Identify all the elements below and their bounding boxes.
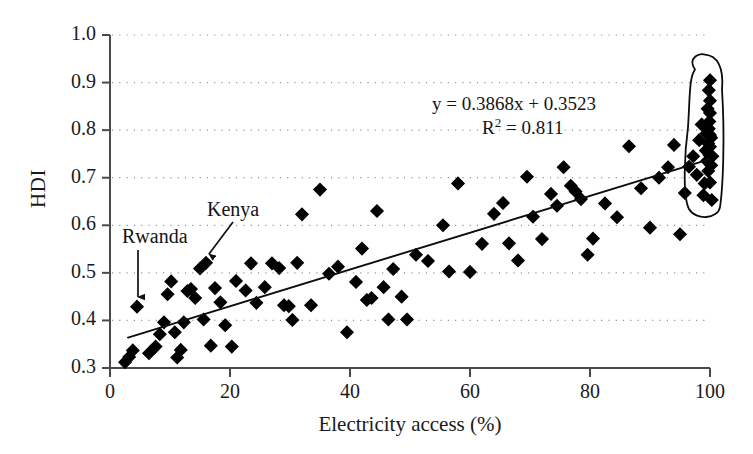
y-tick-label: 1.0 [40, 22, 96, 45]
data-point [239, 284, 251, 296]
data-point [668, 139, 680, 151]
data-point [131, 300, 143, 312]
y-tick-label: 0.5 [40, 260, 96, 283]
data-point [230, 275, 242, 287]
annotation-label-rwanda: Rwanda [122, 225, 188, 248]
data-point [161, 288, 173, 300]
data-point [291, 257, 303, 269]
data-point [437, 219, 449, 231]
data-point [296, 208, 308, 220]
x-tick-label: 100 [680, 380, 740, 403]
data-points-group [119, 74, 719, 368]
data-point [356, 242, 368, 254]
data-point [581, 249, 593, 261]
trendline-equation: y = 0.3868x + 0.3523 [432, 93, 596, 115]
data-point [169, 326, 181, 338]
data-point [452, 177, 464, 189]
data-point [587, 232, 599, 244]
data-point [341, 326, 353, 338]
data-point [205, 339, 217, 351]
data-point [635, 182, 647, 194]
kenya-annotation-arrow [209, 222, 233, 254]
data-point [314, 183, 326, 195]
data-point [350, 276, 362, 288]
data-point [536, 233, 548, 245]
data-point [488, 208, 500, 220]
data-point [611, 211, 623, 223]
data-point [691, 169, 703, 181]
data-point [305, 299, 317, 311]
trend-line [128, 159, 710, 337]
data-point [545, 188, 557, 200]
data-point [704, 74, 716, 86]
y-tick-label: 0.9 [40, 70, 96, 93]
annotation-label-kenya: Kenya [207, 198, 259, 221]
data-point [259, 281, 271, 293]
y-tick-label: 0.3 [40, 355, 96, 378]
data-point [371, 205, 383, 217]
trendline-r-squared: R2 = 0.811 [482, 117, 563, 139]
x-tick-label: 80 [560, 380, 620, 403]
data-point [674, 228, 686, 240]
y-tick-label: 0.6 [40, 212, 96, 235]
data-point [382, 313, 394, 325]
data-point [422, 255, 434, 267]
y-tick-label: 0.4 [40, 307, 96, 330]
x-tick-label: 60 [440, 380, 500, 403]
x-tick-label: 20 [200, 380, 260, 403]
r2-value: = 0.811 [501, 117, 563, 138]
data-point [599, 197, 611, 209]
y-tick-label: 0.7 [40, 165, 96, 188]
x-axis-label: Electricity access (%) [110, 412, 710, 437]
data-point [401, 313, 413, 325]
data-point [476, 238, 488, 250]
data-point [245, 257, 257, 269]
x-axis-ticks [110, 368, 710, 377]
data-point [557, 161, 569, 173]
data-point [503, 237, 515, 249]
data-point [497, 197, 509, 209]
data-point [286, 314, 298, 326]
data-point [165, 275, 177, 287]
data-point [512, 254, 524, 266]
data-point [464, 266, 476, 278]
data-point [226, 340, 238, 352]
y-tick-label: 0.8 [40, 117, 96, 140]
data-point [214, 296, 226, 308]
x-tick-label: 0 [80, 380, 140, 403]
data-point [209, 282, 221, 294]
r2-prefix: R [482, 117, 495, 138]
data-point [644, 221, 656, 233]
data-point [443, 265, 455, 277]
scatter-chart-figure: HDI Electricity access (%) 0.30.40.50.60… [0, 0, 753, 454]
y-axis-ticks [102, 35, 110, 368]
data-point [521, 171, 533, 183]
data-point [395, 290, 407, 302]
x-tick-label: 40 [320, 380, 380, 403]
data-point [623, 140, 635, 152]
data-point [377, 281, 389, 293]
